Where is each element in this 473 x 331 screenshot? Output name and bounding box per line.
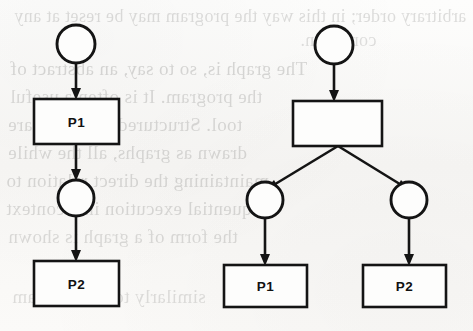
edge-p1-to-circle2 (71, 144, 81, 181)
right-fork-box (293, 101, 382, 146)
edge-circle2-to-p2 (71, 216, 81, 262)
left-process-box-p1-label: P1 (68, 115, 86, 130)
right-process-box-p1: P1 (224, 265, 307, 307)
right-process-box-p2-label: P2 (396, 279, 414, 294)
right-diagram: P1 P2 (224, 26, 446, 307)
scanned-page: arbitrary order; in this way the program… (0, 0, 473, 331)
right-process-box-p2: P2 (363, 265, 446, 307)
left-middle-condition-circle (58, 180, 94, 216)
right-start-condition-circle (315, 26, 353, 64)
left-process-box-p2-label: P2 (68, 277, 86, 292)
right-right-branch-condition-circle (391, 182, 427, 218)
right-left-branch-condition-circle (247, 182, 283, 218)
left-process-box-p2: P2 (34, 261, 119, 306)
left-diagram: P1 P2 (34, 25, 119, 306)
left-start-condition-circle (57, 25, 95, 63)
edge-rcircle1-to-box (329, 64, 339, 102)
edge-rcircle-left-to-p1 (260, 218, 270, 266)
edge-rcircle-right-to-p2 (404, 218, 414, 266)
edge-circle1-to-p1 (71, 63, 81, 100)
figure-diagrams: P1 P2 (0, 0, 473, 331)
right-process-box-p1-label: P1 (257, 279, 275, 294)
left-process-box-p1: P1 (34, 99, 119, 144)
